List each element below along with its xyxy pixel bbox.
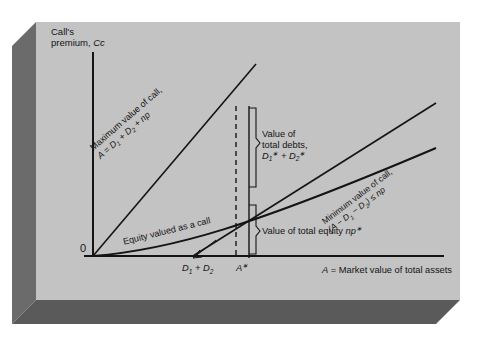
panel-bottom-shadow [12,300,460,324]
panel-face [36,22,460,300]
total-equity-symbol: np∗ [346,226,362,236]
x-axis-label: A = Market value of total assets [322,265,452,276]
x-tick-label-d1d2: D1 + D2 [182,263,213,274]
y-axis-label: Call's premium, Cc [51,26,105,48]
y-axis-label-line1: Call's [51,26,74,37]
total-debts-annotation: Value of total debts, D1∗ + D2∗ [262,129,307,162]
total-debts-line1: Value of [262,129,295,139]
y-axis-label-symbol: Cc [93,37,105,48]
figure-container: Call's premium, Cc 0 Maximum value of ca… [0,0,485,346]
call-option-value-chart [0,0,485,346]
total-equity-text: Value of total equity [262,226,346,236]
y-axis-label-line2: premium, [51,37,93,48]
total-debts-line2: total debts, [262,140,307,150]
total-equity-annotation: Value of total equity np∗ [262,226,362,237]
total-debts-line3: D1∗ + D2∗ [262,151,305,161]
origin-label: 0 [80,242,86,255]
x-tick-label-astar: A∗ [236,263,248,274]
panel-left-shadow [12,22,36,324]
x-axis-label-text: = Market value of total assets [328,265,452,275]
x-tick-astar-math: A∗ [236,263,248,273]
x-tick-d1d2-math: D1 + D2 [182,263,213,273]
